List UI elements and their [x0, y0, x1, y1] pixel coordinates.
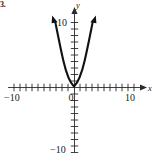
- x-axis-label-negative-ten: −10: [4, 92, 20, 103]
- x-axis-name: x: [147, 83, 152, 93]
- cartesian-plot: −10 0 10 10 −10 x y: [0, 0, 157, 156]
- y-axis-name: y: [75, 0, 80, 10]
- x-axis: [8, 84, 147, 90]
- x-axis-label-ten: 10: [125, 92, 135, 103]
- x-axis-arrowhead-icon: [140, 84, 147, 90]
- x-axis-label-origin: 0: [69, 92, 74, 103]
- graph-figure: 3.: [0, 0, 157, 156]
- parabola-right-arrowhead-icon: [90, 16, 96, 24]
- y-axis-label-ten: 10: [57, 17, 67, 28]
- y-axis-label-negative-ten: −10: [50, 144, 66, 155]
- parabola-curve: [55, 22, 92, 87]
